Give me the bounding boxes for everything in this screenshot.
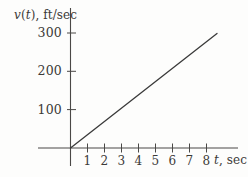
x-tick-label-3: 3: [115, 155, 129, 167]
x-tick-label-7: 7: [183, 155, 197, 167]
y-axis-title-symbol: v: [14, 8, 21, 22]
x-tick-label-1: 1: [81, 155, 95, 167]
y-tick-label-200: 200: [26, 65, 62, 78]
data-series-line: [71, 34, 218, 149]
x-tick-label-5: 5: [149, 155, 163, 167]
x-tick-label-2: 2: [98, 155, 112, 167]
x-tick-label-4: 4: [132, 155, 146, 167]
y-axis-title-unit: , ft/sec: [35, 8, 77, 22]
x-tick-label-6: 6: [166, 155, 180, 167]
y-axis-title: v(t), ft/sec: [14, 9, 77, 21]
y-tick-label-100: 100: [26, 104, 62, 117]
y-tick-label-300: 300: [26, 27, 62, 40]
x-axis-title: t, sec: [214, 154, 247, 166]
x-axis-title-unit: , sec: [219, 153, 247, 167]
velocity-time-chart: 300 200 100 1 2 3 4 5 6 7 8 v(t), ft/sec…: [0, 0, 248, 177]
x-tick-label-8: 8: [200, 155, 214, 167]
